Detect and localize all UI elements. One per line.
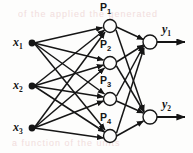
input-node-x3 [29, 125, 36, 132]
edge-P4-y1 [117, 48, 145, 133]
edges-hidden-to-output [116, 27, 144, 136]
input-node-x2 [29, 83, 36, 90]
edge-x2-P3 [34, 86, 104, 97]
output-nodes [143, 35, 157, 124]
hidden-node-P1 [104, 20, 117, 33]
hidden-node-P2 [104, 57, 117, 70]
edge-P4-y2 [117, 121, 144, 136]
input-label-x2: x2 [13, 78, 23, 94]
hidden-label-P1: P1 [100, 1, 111, 16]
output-node-y2 [143, 110, 157, 124]
input-nodes [29, 40, 36, 132]
edge-P1-y1 [117, 27, 144, 40]
hidden-node-P3 [104, 93, 117, 106]
edge-x2-P4 [34, 86, 105, 132]
output-label-y1: y1 [162, 22, 171, 38]
edges-input-to-hidden [34, 28, 105, 139]
edge-x3-P4 [34, 128, 104, 138]
input-node-x1 [29, 40, 36, 47]
input-label-x1: x1 [13, 35, 23, 51]
output-node-y1 [143, 35, 157, 49]
neural-network-diagram: of the applied the generated a function … [0, 0, 193, 153]
edge-P3-y2 [117, 101, 144, 113]
hidden-node-P4 [104, 130, 117, 143]
hidden-label-P3: P3 [100, 74, 111, 89]
hidden-label-P2: P2 [100, 38, 111, 53]
hidden-label-P4: P4 [100, 111, 111, 126]
output-label-y2: y2 [162, 97, 171, 113]
input-label-x3: x3 [13, 120, 23, 136]
